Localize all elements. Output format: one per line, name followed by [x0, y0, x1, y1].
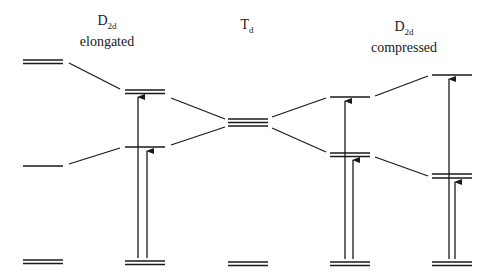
column5-levels	[432, 75, 472, 266]
column2-levels	[125, 90, 165, 265]
column1-levels	[23, 60, 63, 264]
label-td: Td	[240, 17, 253, 38]
label-d2d-elongated: D2d elongated	[80, 13, 134, 49]
column4-levels	[330, 97, 370, 266]
label-symbol: D	[394, 19, 404, 34]
label-subscript: 2d	[405, 27, 414, 37]
label-symbol: T	[240, 17, 249, 32]
label-symbol: D	[97, 13, 107, 28]
label-subscript: 2d	[108, 21, 117, 31]
label-descriptor: elongated	[80, 34, 134, 49]
column3-levels	[228, 119, 268, 266]
label-d2d-compressed: D2d compressed	[371, 19, 437, 55]
label-subscript: d	[249, 25, 254, 35]
label-descriptor: compressed	[371, 40, 437, 55]
